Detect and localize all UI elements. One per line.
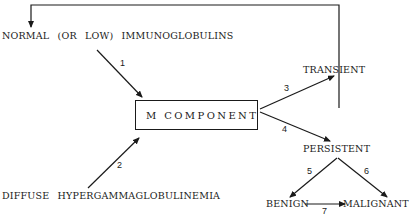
- node-benign: BENIGN: [266, 198, 309, 209]
- edge-label-3: 3: [284, 83, 289, 93]
- node-malignant: MALIGNANT: [343, 198, 409, 209]
- edge-label-7: 7: [322, 206, 327, 215]
- arrow-3: [260, 76, 334, 109]
- arrow-4: [260, 112, 330, 141]
- node-diffuse-hypergammaglobulinemia: DIFFUSE HYPERGAMMAGLOBULINEMIA: [2, 190, 220, 201]
- edge-label-5: 5: [307, 166, 312, 176]
- edge-label-2: 2: [117, 160, 122, 170]
- node-transient: TRANSIENT: [303, 64, 365, 75]
- arrow-transient-to-normal: [31, 5, 339, 108]
- arrow-2: [88, 138, 139, 188]
- arrow-6: [338, 158, 387, 197]
- edge-label-6: 6: [364, 166, 369, 176]
- edge-label-4: 4: [282, 124, 287, 134]
- node-m-component: M COMPONENT: [135, 100, 258, 130]
- arrow-5: [290, 158, 337, 197]
- node-persistent: PERSISTENT: [303, 143, 370, 154]
- node-normal-immunoglobulins: NORMAL (OR LOW) IMMUNOGLOBULINS: [2, 30, 234, 41]
- m-component-label: M COMPONENT: [146, 110, 258, 121]
- edge-label-1: 1: [120, 58, 125, 68]
- diagram-canvas: NORMAL (OR LOW) IMMUNOGLOBULINS DIFFUSE …: [0, 0, 412, 215]
